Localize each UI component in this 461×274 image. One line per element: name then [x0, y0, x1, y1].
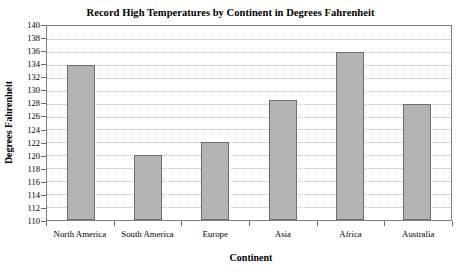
y-axis-tick-label: 122	[14, 138, 40, 147]
plot-area	[46, 25, 452, 221]
x-axis-tick-label: South America	[114, 229, 182, 239]
bar-slot	[316, 26, 383, 220]
y-axis-tick-label: 130	[14, 86, 40, 95]
x-axis-tick-mark	[181, 221, 182, 226]
x-axis-tick-label: North America	[46, 229, 114, 239]
y-axis-tick-label: 132	[14, 73, 40, 82]
x-axis-tick-labels: North AmericaSouth AmericaEuropeAsiaAfri…	[46, 229, 452, 239]
bar-slot	[114, 26, 181, 220]
y-axis-tick-label: 110	[14, 217, 40, 226]
x-axis-tick-mark	[114, 221, 115, 226]
bar-slot	[182, 26, 249, 220]
bar	[134, 155, 162, 220]
y-axis-tick-label: 120	[14, 151, 40, 160]
y-axis-tick-label: 124	[14, 125, 40, 134]
x-axis-tick-mark	[317, 221, 318, 226]
x-axis-title: Continent	[46, 252, 456, 263]
x-axis-tick-mark	[249, 221, 250, 226]
y-axis-tick-label: 140	[14, 21, 40, 30]
chart-title: Record High Temperatures by Continent in…	[0, 7, 461, 18]
bar	[67, 65, 95, 220]
y-axis-tick-labels: 1401381361341321301281261241221201181161…	[12, 25, 40, 221]
y-axis-tick-label: 128	[14, 99, 40, 108]
bar	[336, 52, 364, 220]
y-axis-tick-label: 112	[14, 204, 40, 213]
x-axis-tick-mark	[46, 221, 47, 226]
x-axis-tick-mark	[452, 221, 453, 226]
bar-slot	[249, 26, 316, 220]
x-axis-tick-mark	[384, 221, 385, 226]
x-axis-tick-marks	[46, 221, 452, 226]
y-axis-tick-label: 138	[14, 34, 40, 43]
y-axis-tick-label: 136	[14, 47, 40, 56]
x-axis-tick-label: Europe	[181, 229, 249, 239]
x-axis-tick-label: Australia	[384, 229, 452, 239]
x-axis-tick-label: Africa	[317, 229, 385, 239]
bar-slot	[47, 26, 114, 220]
bar	[201, 142, 229, 220]
bar-chart-figure: Record High Temperatures by Continent in…	[0, 0, 461, 274]
y-axis-tick-label: 134	[14, 60, 40, 69]
y-axis-tick-label: 118	[14, 164, 40, 173]
bar	[269, 100, 297, 220]
bar-slot	[384, 26, 451, 220]
bar	[403, 104, 431, 220]
y-axis-tick-label: 114	[14, 191, 40, 200]
y-axis-tick-label: 126	[14, 112, 40, 121]
x-axis-tick-label: Asia	[249, 229, 317, 239]
bars-layer	[47, 26, 451, 220]
y-axis-tick-label: 116	[14, 178, 40, 187]
